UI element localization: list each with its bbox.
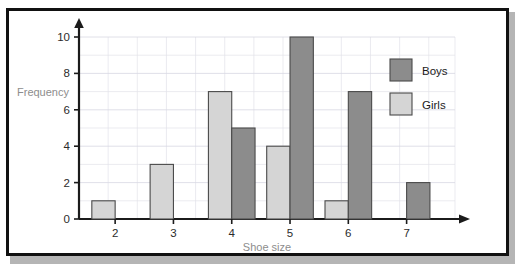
y-axis-title: Frequency [17, 86, 69, 98]
y-axis-tick-label: 8 [64, 67, 70, 79]
bar-girls-size-4[interactable] [208, 92, 231, 219]
x-axis-tick-label: 5 [287, 227, 293, 239]
bar-girls-size-5[interactable] [267, 146, 290, 219]
chart-plot-area: 0246810Frequency234567Shoe sizeBoysGirls [9, 11, 506, 253]
y-axis-tick-label: 2 [64, 177, 70, 189]
y-axis-tick-label: 6 [64, 104, 70, 116]
y-axis-arrow-icon [74, 18, 84, 28]
legend-label-boys: Boys [422, 65, 448, 77]
bar-boys-size-4[interactable] [232, 128, 255, 219]
bar-girls-size-2[interactable] [92, 201, 115, 219]
bar-girls-size-3[interactable] [150, 164, 173, 219]
y-axis-tick-label: 4 [64, 140, 71, 152]
bar-boys-size-6[interactable] [348, 92, 371, 219]
y-axis-tick-label: 10 [57, 31, 70, 43]
x-axis-tick-label: 7 [403, 227, 409, 239]
y-axis-tick-label: 0 [64, 213, 70, 225]
x-axis-tick-label: 2 [112, 227, 118, 239]
bar-chart: 0246810Frequency234567Shoe sizeBoysGirls [9, 11, 506, 253]
legend-swatch-girls[interactable] [390, 93, 412, 115]
x-axis-tick-label: 6 [345, 227, 351, 239]
page-cut-text [0, 0, 517, 8]
x-axis-title: Shoe size [243, 241, 291, 253]
legend-label-girls: Girls [422, 99, 446, 111]
x-axis-arrow-icon [459, 214, 470, 223]
bar-boys-size-5[interactable] [290, 37, 313, 219]
bar-girls-size-6[interactable] [325, 201, 348, 219]
x-axis-tick-label: 4 [229, 227, 236, 239]
legend-swatch-boys[interactable] [390, 59, 412, 81]
bar-boys-size-7[interactable] [407, 183, 430, 219]
figure-frame: 0246810Frequency234567Shoe sizeBoysGirls [6, 8, 509, 256]
x-axis-tick-label: 3 [170, 227, 176, 239]
